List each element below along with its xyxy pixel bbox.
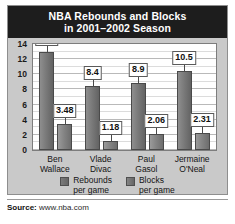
chart-figure: NBA Rebounds and Blocks in 2001–2002 Sea… bbox=[0, 0, 235, 224]
source-divider bbox=[7, 199, 228, 200]
data-label: 2.06 bbox=[145, 114, 169, 128]
y-axis-tick-label: 12 bbox=[18, 55, 27, 64]
callout-leader-line bbox=[184, 65, 185, 71]
bar bbox=[85, 86, 100, 150]
legend-item-blocks[interactable]: Blocksper game bbox=[126, 176, 175, 195]
x-axis-categories: BenWallaceVladeDivacPaulGasolJermaineO'N… bbox=[32, 153, 217, 175]
data-label: 13.0 bbox=[35, 43, 59, 46]
bar bbox=[39, 52, 54, 150]
source-note: Source: www.nba.com bbox=[7, 203, 228, 213]
y-axis-tick-label: 6 bbox=[22, 100, 27, 109]
chart-legend: Reboundsper gameBlocksper game bbox=[8, 176, 227, 195]
legend-swatch-icon bbox=[60, 177, 69, 186]
source-value: www.nba.com bbox=[39, 203, 89, 212]
callout-leader-line bbox=[65, 118, 66, 124]
data-label: 8.9 bbox=[129, 63, 148, 77]
data-label: 10.5 bbox=[172, 51, 196, 65]
y-axis-tick-label: 8 bbox=[22, 85, 27, 94]
category-label-line: Paul bbox=[135, 154, 157, 164]
callout-leader-line bbox=[47, 46, 48, 52]
callout-leader-line bbox=[93, 80, 94, 86]
chart-title: NBA Rebounds and Blocks in 2001–2002 Sea… bbox=[49, 10, 187, 34]
data-label: 3.48 bbox=[53, 104, 77, 118]
bar bbox=[177, 71, 192, 151]
callout-leader-line bbox=[202, 127, 203, 133]
y-axis-tick-label: 2 bbox=[22, 130, 27, 139]
data-label: 1.18 bbox=[99, 121, 123, 135]
legend-label-line-2: per game bbox=[73, 186, 112, 196]
chart-title-line-1: NBA Rebounds and Blocks bbox=[49, 10, 187, 22]
chart-panel: NBA Rebounds and Blocks in 2001–2002 Sea… bbox=[7, 5, 228, 195]
callout-leader-line bbox=[138, 77, 139, 83]
bar bbox=[149, 134, 164, 150]
x-axis-category-label: VladeDivac bbox=[90, 154, 112, 174]
legend-label: Blocksper game bbox=[139, 176, 175, 195]
data-label: 2.31 bbox=[190, 113, 214, 127]
bar-groups: 13.03.488.41.188.92.0610.52.31 bbox=[33, 44, 216, 150]
category-label-line: O'Neal bbox=[175, 164, 210, 174]
callout-leader-line bbox=[156, 128, 157, 134]
plot-area: 13.03.488.41.188.92.0610.52.31 bbox=[32, 43, 217, 151]
chart-title-band: NBA Rebounds and Blocks in 2001–2002 Sea… bbox=[8, 6, 227, 38]
source-label: Source: bbox=[7, 203, 37, 212]
category-label-line: Gasol bbox=[135, 164, 157, 174]
callout-leader-line bbox=[111, 135, 112, 141]
category-label-line: Jermaine bbox=[175, 154, 210, 164]
y-axis-tick-label: 0 bbox=[22, 146, 27, 155]
legend-label: Reboundsper game bbox=[73, 176, 112, 195]
category-label-line: Wallace bbox=[40, 164, 70, 174]
bar bbox=[195, 133, 210, 150]
y-axis-tick-label: 4 bbox=[22, 115, 27, 124]
x-axis-category-label: JermaineO'Neal bbox=[175, 154, 210, 174]
data-label: 8.4 bbox=[83, 66, 102, 80]
x-axis-category-label: BenWallace bbox=[40, 154, 70, 174]
y-axis-tick-label: 14 bbox=[18, 40, 27, 49]
category-label-line: Ben bbox=[40, 154, 70, 164]
y-axis-tick-label: 10 bbox=[18, 70, 27, 79]
legend-item-rebounds[interactable]: Reboundsper game bbox=[60, 176, 112, 195]
category-label-line: Vlade bbox=[90, 154, 112, 164]
legend-swatch-icon bbox=[126, 177, 135, 186]
category-label-line: Divac bbox=[90, 164, 112, 174]
x-axis-category-label: PaulGasol bbox=[135, 154, 157, 174]
plot-area-wrapper: 13.03.488.41.188.92.0610.52.31 bbox=[32, 43, 217, 151]
chart-title-line-2: in 2001–2002 Season bbox=[49, 22, 187, 34]
y-axis: 02468101214 bbox=[8, 43, 30, 151]
legend-label-line-2: per game bbox=[139, 186, 175, 196]
bar bbox=[103, 141, 118, 150]
bar bbox=[57, 124, 72, 150]
